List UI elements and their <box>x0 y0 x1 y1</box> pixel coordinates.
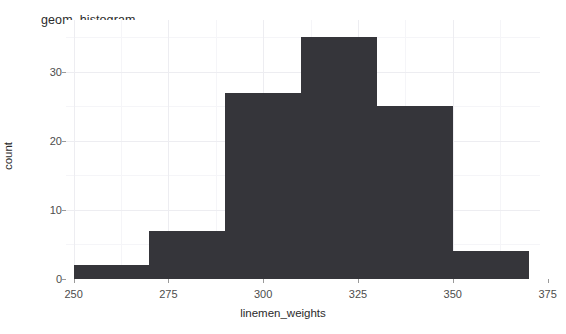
histogram-bar <box>225 93 301 279</box>
histogram-chart: geom_histogram 0102030 25027530032535037… <box>0 0 566 334</box>
x-axis-tick-label: 325 <box>349 288 367 300</box>
y-axis-ticks: 0102030 <box>18 0 62 334</box>
x-axis-tick-mark <box>358 279 359 283</box>
x-axis-tick-label: 350 <box>444 288 462 300</box>
gridline-vertical <box>74 20 75 279</box>
y-axis-tick-mark <box>62 210 66 211</box>
gridline-minor-vertical <box>500 20 501 279</box>
x-axis-tick-mark <box>263 279 264 283</box>
y-axis-tick-mark <box>62 141 66 142</box>
x-axis-tick-label: 375 <box>538 288 556 300</box>
y-axis-title: count <box>2 126 14 186</box>
histogram-bar <box>453 251 529 279</box>
y-axis-tick-mark <box>62 279 66 280</box>
y-axis-tick-label: 20 <box>28 135 62 147</box>
x-axis-tick-mark <box>168 279 169 283</box>
histogram-bar <box>149 231 225 279</box>
x-axis-tick-mark <box>74 279 75 283</box>
histogram-bar <box>301 37 377 279</box>
x-axis-tick-label: 250 <box>64 288 82 300</box>
y-axis-tick-label: 30 <box>28 66 62 78</box>
plot-panel <box>66 20 540 279</box>
y-axis-tick-label: 0 <box>28 273 62 285</box>
x-axis-tick-label: 300 <box>254 288 272 300</box>
y-axis-tick-mark <box>62 72 66 73</box>
x-axis-title: linemen_weights <box>0 307 566 319</box>
y-axis-tick-label: 10 <box>28 204 62 216</box>
x-axis-tick-label: 275 <box>159 288 177 300</box>
x-axis-tick-mark <box>453 279 454 283</box>
x-axis-tick-mark <box>548 279 549 283</box>
histogram-bar <box>74 265 150 279</box>
x-axis-ticks: 250275300325350375 <box>0 288 566 304</box>
histogram-bar <box>377 106 453 279</box>
gridline-minor-vertical <box>121 20 122 279</box>
gridline-vertical <box>453 20 454 279</box>
